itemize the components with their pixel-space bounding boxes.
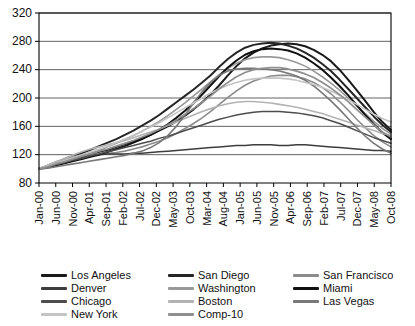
legend-label: Denver <box>71 282 106 295</box>
y-tick-label: 160 <box>12 119 32 133</box>
legend-swatch-line-icon <box>41 313 67 316</box>
x-tick-label: Jan-00 <box>33 191 45 225</box>
legend-swatch-line-icon <box>168 300 194 303</box>
x-tick-label: Sep-01 <box>100 191 112 226</box>
x-tick-label: Jun-05 <box>251 191 263 225</box>
x-tick-label: May-03 <box>167 191 179 228</box>
x-tick-label: Jan-05 <box>234 191 246 225</box>
series-line-san-diego <box>39 43 391 169</box>
x-tick-label: Apr-06 <box>284 191 296 224</box>
legend-label: New York <box>71 308 117 321</box>
x-tick-label: Feb-07 <box>318 191 330 226</box>
x-tick-label: Dec-02 <box>150 191 162 226</box>
legend-item[interactable]: Las Vegas <box>293 295 413 308</box>
y-tick-label: 240 <box>12 62 32 76</box>
legend-item[interactable]: Denver <box>41 282 161 295</box>
y-tick-label: 120 <box>12 147 32 161</box>
legend-item[interactable]: Chicago <box>41 295 161 308</box>
y-axis-ticks: 80120160200240280320 <box>12 6 39 190</box>
x-tick-label: Oct-08 <box>385 191 397 224</box>
series-line-boston <box>39 102 391 169</box>
legend-label: Washington <box>198 282 256 295</box>
x-tick-label: Apr-01 <box>83 191 95 224</box>
legend-label: San Francisco <box>323 269 393 282</box>
y-tick-label: 280 <box>12 34 32 48</box>
legend-column-2: San DiegoWashingtonBostonComp-10 <box>168 269 288 321</box>
x-tick-label: Dec-07 <box>351 191 363 226</box>
legend-item[interactable]: San Francisco <box>293 269 413 282</box>
x-tick-label: Mar-04 <box>201 191 213 226</box>
x-tick-label: Nov-00 <box>67 191 79 226</box>
x-tick-label: Oct-03 <box>184 191 196 224</box>
x-tick-label: May-08 <box>368 191 380 228</box>
chart-container: 80120160200240280320 Jan-00Jun-00Nov-00A… <box>0 0 415 326</box>
legend-swatch-line-icon <box>41 300 67 303</box>
x-tick-label: Nov-05 <box>268 191 280 226</box>
legend-swatch-line-icon <box>293 287 319 290</box>
y-tick-label: 80 <box>19 176 33 190</box>
legend-item[interactable]: Washington <box>168 282 288 295</box>
legend-label: San Diego <box>198 269 249 282</box>
legend-label: Miami <box>323 282 352 295</box>
legend-swatch-line-icon <box>41 274 67 277</box>
x-tick-label: Sep-06 <box>301 191 313 226</box>
legend-item[interactable]: San Diego <box>168 269 288 282</box>
chart-legend: Los AngelesDenverChicagoNew York San Die… <box>27 269 397 325</box>
legend-swatch-line-icon <box>168 287 194 290</box>
legend-swatch-line-icon <box>41 287 67 290</box>
legend-swatch-line-icon <box>168 274 194 277</box>
legend-swatch-line-icon <box>293 274 319 277</box>
y-tick-label: 320 <box>12 6 32 20</box>
legend-column-1: Los AngelesDenverChicagoNew York <box>41 269 161 321</box>
legend-item[interactable]: Miami <box>293 282 413 295</box>
legend-label: Boston <box>198 295 232 308</box>
legend-label: Los Angeles <box>71 269 131 282</box>
x-tick-label: Jul-07 <box>335 191 347 221</box>
series-lines <box>39 43 391 169</box>
x-axis-ticks: Jan-00Jun-00Nov-00Apr-01Sep-01Feb-02Jul-… <box>33 183 397 228</box>
legend-swatch-line-icon <box>293 300 319 303</box>
legend-item[interactable]: New York <box>41 308 161 321</box>
y-tick-label: 200 <box>12 91 32 105</box>
legend-label: Comp-10 <box>198 308 243 321</box>
x-tick-label: Feb-02 <box>117 191 129 226</box>
x-tick-label: Jul-02 <box>134 191 146 221</box>
legend-label: Las Vegas <box>323 295 374 308</box>
legend-column-3: San FranciscoMiamiLas Vegas <box>293 269 413 308</box>
legend-item[interactable]: Boston <box>168 295 288 308</box>
legend-item[interactable]: Los Angeles <box>41 269 161 282</box>
legend-label: Chicago <box>71 295 111 308</box>
x-tick-label: Aug-04 <box>217 191 229 226</box>
legend-swatch-line-icon <box>168 313 194 316</box>
x-tick-label: Jun-00 <box>50 191 62 225</box>
legend-item[interactable]: Comp-10 <box>168 308 288 321</box>
